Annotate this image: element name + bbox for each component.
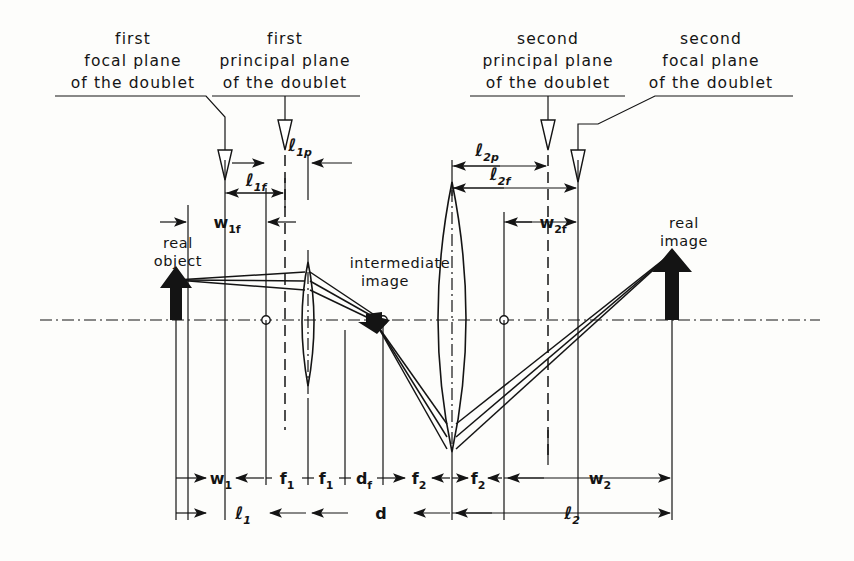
dimension-w1f: w1f bbox=[160, 213, 296, 236]
svg-text:of the doublet: of the doublet bbox=[71, 74, 196, 92]
svg-text:w2: w2 bbox=[589, 469, 611, 492]
real-object-arrow bbox=[160, 266, 192, 320]
dimension-df: df bbox=[345, 469, 383, 492]
svg-text:f2: f2 bbox=[471, 469, 486, 492]
svg-text:principal plane: principal plane bbox=[219, 52, 350, 70]
ray-bundle-intermediate-to-lens2 bbox=[377, 325, 447, 449]
svg-text:f1: f1 bbox=[280, 469, 295, 492]
svg-text:ℓ1p: ℓ1p bbox=[287, 135, 312, 159]
svg-text:focal plane: focal plane bbox=[84, 52, 181, 70]
svg-text:intermediate: intermediate bbox=[350, 255, 451, 271]
real-image-arrow bbox=[652, 248, 692, 320]
lens-2 bbox=[438, 182, 466, 452]
svg-text:of the doublet: of the doublet bbox=[223, 74, 348, 92]
svg-text:second: second bbox=[517, 30, 579, 48]
svg-text:image: image bbox=[361, 273, 409, 289]
real-object-label: real object bbox=[154, 235, 202, 269]
dimension-w2: w2 bbox=[504, 469, 670, 492]
svg-text:f1: f1 bbox=[319, 469, 334, 492]
dimension-d: d bbox=[312, 504, 450, 523]
second-principal-plane-label: second principal plane of the doublet bbox=[482, 30, 613, 92]
svg-text:f2: f2 bbox=[412, 469, 427, 492]
svg-text:w1f: w1f bbox=[213, 213, 240, 236]
svg-text:object: object bbox=[154, 253, 202, 269]
svg-text:focal plane: focal plane bbox=[662, 52, 759, 70]
dimension-w2f: w2f bbox=[504, 213, 576, 236]
svg-text:principal plane: principal plane bbox=[482, 52, 613, 70]
real-image-label: real image bbox=[660, 215, 708, 249]
dimension-f1-a: f1 bbox=[266, 469, 308, 492]
dimension-l1: ℓ1 bbox=[176, 503, 306, 527]
svg-text:real: real bbox=[163, 235, 193, 251]
svg-text:of the doublet: of the doublet bbox=[486, 74, 611, 92]
dimension-w1: w1 bbox=[176, 469, 264, 492]
leader-second-focal-plane bbox=[571, 96, 793, 182]
svg-text:w1: w1 bbox=[210, 469, 232, 492]
svg-text:ℓ2f: ℓ2f bbox=[489, 164, 512, 188]
intermediate-image-label: intermediate image bbox=[350, 255, 451, 289]
svg-text:ℓ1: ℓ1 bbox=[234, 503, 251, 527]
svg-text:ℓ1f: ℓ1f bbox=[245, 170, 268, 194]
svg-text:real: real bbox=[669, 215, 699, 231]
leader-second-principal-plane bbox=[470, 96, 625, 150]
leader-first-principal-plane bbox=[212, 96, 360, 150]
svg-text:second: second bbox=[680, 30, 742, 48]
dimension-f1-b: f1 bbox=[308, 469, 345, 492]
svg-text:image: image bbox=[660, 233, 708, 249]
dimension-l1p: ℓ1p bbox=[232, 135, 352, 163]
dimension-l2f: ℓ2f bbox=[452, 164, 576, 188]
svg-text:first: first bbox=[115, 30, 151, 48]
ray-diagram-svg: first focal plane of the doublet first p… bbox=[0, 0, 854, 561]
first-principal-plane-label: first principal plane of the doublet bbox=[219, 30, 350, 92]
svg-text:w2f: w2f bbox=[539, 213, 566, 236]
top-extension-lines bbox=[188, 155, 308, 520]
second-focal-plane-label: second focal plane of the doublet bbox=[649, 30, 774, 92]
leader-first-focal-plane bbox=[55, 96, 232, 180]
svg-text:d: d bbox=[375, 504, 386, 523]
dimension-f2-b: f2 bbox=[452, 469, 502, 492]
svg-text:ℓ2p: ℓ2p bbox=[474, 140, 499, 164]
optics-diagram-canvas: first focal plane of the doublet first p… bbox=[0, 0, 854, 561]
svg-text:of the doublet: of the doublet bbox=[649, 74, 774, 92]
dimension-l2: ℓ2 bbox=[452, 503, 670, 527]
first-focal-plane-label: first focal plane of the doublet bbox=[71, 30, 196, 92]
ray-bundle-lens2-to-image bbox=[456, 253, 672, 449]
svg-text:first: first bbox=[267, 30, 303, 48]
dimension-l2p: ℓ2p bbox=[452, 140, 546, 166]
dimension-l1f: ℓ1f bbox=[225, 170, 283, 194]
dimension-f2-a: f2 bbox=[383, 469, 450, 492]
top-extension-lines-right bbox=[452, 160, 578, 520]
svg-text:df: df bbox=[356, 469, 372, 492]
